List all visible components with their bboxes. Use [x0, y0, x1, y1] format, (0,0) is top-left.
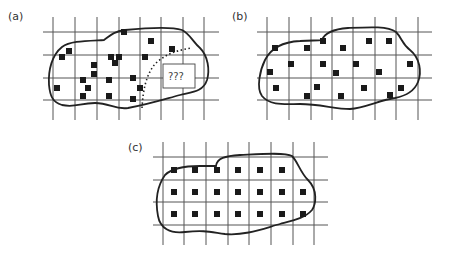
panel-c-samples — [171, 167, 306, 217]
panel-b: (b) — [232, 10, 432, 120]
panel-a-label: (a) — [8, 10, 23, 23]
panel-c-label: (c) — [128, 141, 143, 154]
panel-b-label: (b) — [232, 10, 248, 23]
panel-c: (c) — [128, 141, 328, 245]
panel-a-samples — [54, 29, 175, 102]
diagram-canvas: (a) ??? — [0, 0, 451, 256]
panel-a: (a) ??? — [8, 10, 219, 120]
panel-a-unknown-label: ??? — [168, 71, 184, 82]
